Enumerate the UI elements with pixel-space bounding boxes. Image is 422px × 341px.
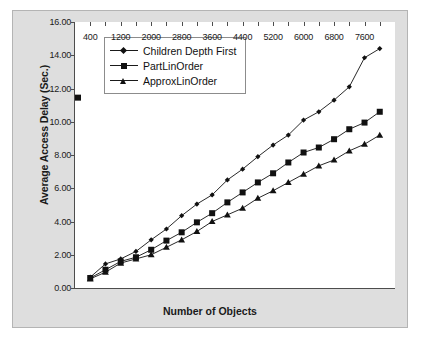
square-data-point bbox=[331, 136, 337, 142]
x-axis-tick-mark bbox=[319, 22, 320, 26]
y-axis-tick-label: 12.00 bbox=[49, 84, 71, 94]
triangle-data-point bbox=[376, 132, 383, 138]
x-axis-tick-mark bbox=[258, 22, 259, 26]
triangle-data-point bbox=[254, 195, 261, 201]
triangle-data-point bbox=[194, 228, 201, 234]
x-axis-tick-label: 400 bbox=[83, 32, 97, 42]
square-data-point bbox=[377, 109, 383, 115]
x-axis-tick-label: 5200 bbox=[263, 32, 282, 42]
y-axis-tick-label: 0.00 bbox=[54, 283, 71, 293]
diamond-data-point bbox=[362, 55, 367, 60]
x-axis-tick-label: 6800 bbox=[324, 32, 343, 42]
x-axis-tick-label: 4400 bbox=[233, 32, 252, 42]
x-axis-tick-mark bbox=[166, 22, 167, 26]
legend-item-label: PartLinOrder bbox=[143, 60, 203, 72]
x-axis-tick-mark bbox=[136, 22, 137, 26]
triangle-data-point bbox=[209, 218, 216, 224]
x-axis-tick-mark bbox=[105, 22, 106, 26]
chart-figure: Average Access Delay (Sec.) Number of Ob… bbox=[12, 10, 408, 328]
square-data-point bbox=[179, 229, 185, 235]
x-axis-title: Number of Objects bbox=[13, 305, 407, 317]
plot-area: Children Depth First PartLinOrder Approx… bbox=[74, 22, 395, 289]
triangle-data-point bbox=[285, 179, 292, 185]
y-axis-tick-mark bbox=[71, 155, 75, 156]
square-data-point bbox=[163, 238, 169, 244]
square-data-point bbox=[194, 219, 200, 225]
x-axis-tick-label: 6000 bbox=[294, 32, 313, 42]
triangle-data-point bbox=[361, 141, 368, 147]
triangle-data-point bbox=[163, 244, 170, 250]
triangle-data-point bbox=[224, 211, 231, 217]
y-axis-tick-label: 8.00 bbox=[54, 150, 71, 160]
legend-item: ApproxLinOrder bbox=[110, 73, 236, 88]
y-axis-tick-label: 16.00 bbox=[49, 17, 71, 27]
square-data-point bbox=[316, 145, 322, 151]
y-axis-tick-label: 4.00 bbox=[54, 217, 71, 227]
triangle-data-point bbox=[331, 157, 338, 163]
square-data-point bbox=[346, 126, 352, 132]
y-axis-title: Average Access Delay (Sec.) bbox=[38, 40, 50, 230]
triangle-marker-icon bbox=[110, 75, 138, 87]
square-data-point bbox=[209, 210, 215, 216]
x-axis-tick-mark bbox=[304, 22, 305, 26]
x-axis-tick-mark bbox=[334, 22, 335, 26]
x-axis-tick-label: 1200 bbox=[111, 32, 130, 42]
x-axis-tick-label: 3600 bbox=[203, 32, 222, 42]
y-axis-tick-mark bbox=[71, 22, 75, 23]
y-axis-tick-label: 10.00 bbox=[49, 117, 71, 127]
triangle-data-point bbox=[239, 205, 246, 211]
x-axis-tick-mark bbox=[90, 22, 91, 26]
square-data-point bbox=[285, 159, 291, 165]
square-data-point bbox=[255, 179, 261, 185]
x-axis-tick-label: 7600 bbox=[355, 32, 374, 42]
x-axis-tick-mark bbox=[349, 22, 350, 26]
x-axis-tick-mark bbox=[151, 22, 152, 26]
y-axis-tick-label: 14.00 bbox=[49, 50, 71, 60]
legend-item: Children Depth First bbox=[110, 43, 236, 58]
x-axis-tick-mark bbox=[182, 22, 183, 26]
x-axis-tick-label: 2800 bbox=[172, 32, 191, 42]
square-marker-icon bbox=[110, 60, 138, 72]
y-axis-tick-mark bbox=[71, 55, 75, 56]
legend-item: PartLinOrder bbox=[110, 58, 236, 73]
y-axis-tick-mark bbox=[71, 89, 75, 90]
x-axis-tick-mark bbox=[121, 22, 122, 26]
legend-item-label: ApproxLinOrder bbox=[143, 75, 217, 87]
y-axis-tick-mark bbox=[71, 288, 75, 289]
legend-item-label: Children Depth First bbox=[143, 45, 236, 57]
y-axis-tick-mark bbox=[71, 255, 75, 256]
x-axis-tick-mark bbox=[380, 22, 381, 26]
square-data-point bbox=[75, 95, 81, 101]
y-axis-tick-mark bbox=[71, 122, 75, 123]
x-axis-tick-mark bbox=[243, 22, 244, 26]
triangle-data-point bbox=[315, 162, 322, 168]
x-axis-tick-mark bbox=[197, 22, 198, 26]
triangle-data-point bbox=[270, 187, 277, 193]
diamond-data-point bbox=[377, 46, 382, 51]
square-data-point bbox=[224, 199, 230, 205]
x-axis-tick-mark bbox=[365, 22, 366, 26]
square-data-point bbox=[270, 170, 276, 176]
square-data-point bbox=[362, 120, 368, 126]
x-axis-tick-mark bbox=[212, 22, 213, 26]
x-axis-tick-label: 2000 bbox=[142, 32, 161, 42]
square-data-point bbox=[301, 150, 307, 156]
y-axis-tick-mark bbox=[71, 188, 75, 189]
y-axis-tick-mark bbox=[71, 222, 75, 223]
chart-legend: Children Depth First PartLinOrder Approx… bbox=[104, 37, 246, 94]
triangle-data-point bbox=[300, 171, 307, 177]
triangle-data-point bbox=[346, 147, 353, 153]
y-axis-tick-label: 2.00 bbox=[54, 250, 71, 260]
x-axis-tick-mark bbox=[288, 22, 289, 26]
triangle-data-point bbox=[178, 236, 185, 242]
x-axis-tick-mark bbox=[227, 22, 228, 26]
diamond-marker-icon bbox=[110, 45, 138, 57]
square-data-point bbox=[240, 189, 246, 195]
y-axis-tick-label: 6.00 bbox=[54, 183, 71, 193]
x-axis-tick-mark bbox=[273, 22, 274, 26]
